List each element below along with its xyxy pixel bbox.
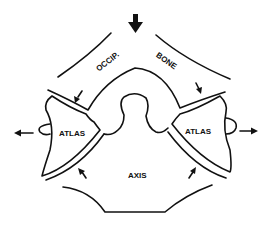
label-axis: AXIS [128, 171, 147, 180]
label-bone: BONE [154, 51, 179, 72]
label-atlas-right: ATLAS [185, 127, 212, 136]
arrow-upper-left-icon [74, 91, 82, 103]
arrow-lower-left-icon [78, 168, 86, 178]
arrow-lower-right-icon [189, 167, 196, 178]
cervical-diagram-svg: OCCIP. BONE ATLAS ATLAS AXIS [0, 0, 272, 228]
arrow-upper-right-icon [196, 83, 202, 94]
arrow-left-out-icon [14, 130, 33, 137]
atlas-right-lower-joint [168, 132, 226, 178]
atlas-right-condyle [226, 118, 236, 134]
axis-dens-outline [104, 94, 168, 135]
axis-body-outline [63, 185, 212, 212]
diagram: OCCIP. BONE ATLAS ATLAS AXIS [0, 0, 272, 228]
arrow-top-down-icon [128, 14, 143, 33]
atlas-left-condyle [39, 124, 50, 135]
label-occip: OCCIP. [94, 50, 120, 73]
arrow-right-out-icon [240, 128, 258, 135]
label-atlas-left: ATLAS [59, 129, 86, 138]
